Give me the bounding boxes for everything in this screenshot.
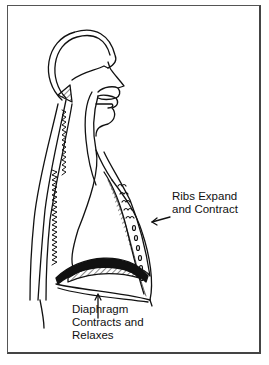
diaphragm-label-line1: Diaphragm [72, 303, 144, 316]
diaphragm-label-line2: Contracts and [72, 316, 144, 329]
ribs-label-line2: and Contract [172, 203, 238, 216]
diaphragm-label-line3: Relaxes [72, 329, 144, 342]
spine-back [30, 104, 58, 300]
skull-outline [48, 30, 115, 100]
ribs-label-line1: Ribs Expand [172, 190, 238, 203]
ribs-label: Ribs Expand and Contract [172, 190, 238, 216]
diaphragm-label: Diaphragm Contracts and Relaxes [72, 303, 144, 342]
